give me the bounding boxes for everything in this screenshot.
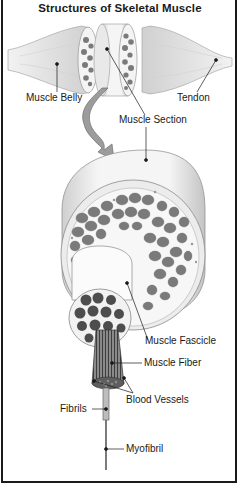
label-muscle-belly: Muscle Belly xyxy=(26,92,82,103)
label-muscle-section: Muscle Section xyxy=(119,114,187,125)
muscle-illustration xyxy=(0,0,240,486)
curved-arrow-icon xyxy=(83,88,114,160)
muscle-fiber xyxy=(92,330,124,389)
label-muscle-fiber: Muscle Fiber xyxy=(144,357,201,368)
label-tendon: Tendon xyxy=(177,92,210,103)
label-myofibril: Myofibril xyxy=(126,443,163,454)
whole-muscle xyxy=(8,24,232,96)
label-muscle-fascicle: Muscle Fascicle xyxy=(145,335,216,346)
label-fibrils: Fibrils xyxy=(60,403,87,414)
fibril xyxy=(103,388,109,420)
label-blood-vessels: Blood Vessels xyxy=(126,394,189,405)
